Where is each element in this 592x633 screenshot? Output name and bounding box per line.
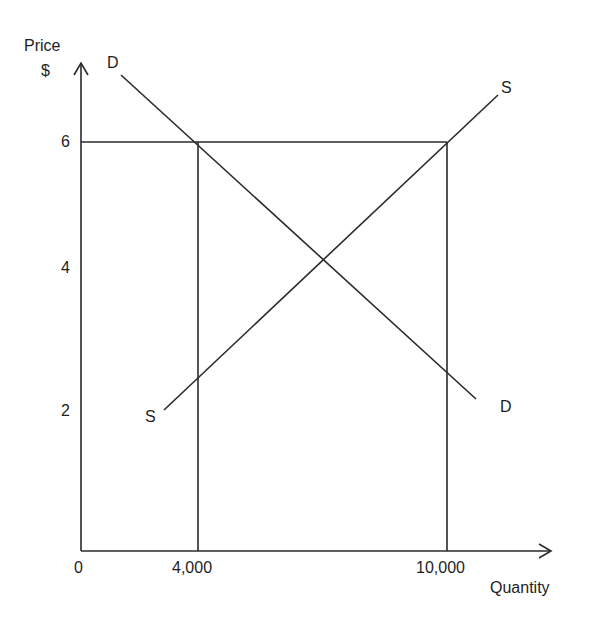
y-tick-2: 2 xyxy=(61,403,70,419)
y-tick-6: 6 xyxy=(61,134,70,150)
x-tick-0: 0 xyxy=(74,560,83,576)
x-tick-10000: 10,000 xyxy=(416,560,465,576)
x-axis-title-quantity: Quantity xyxy=(490,580,550,596)
demand-label-top: D xyxy=(107,55,119,71)
supply-label-bottom: S xyxy=(145,409,156,425)
y-tick-4: 4 xyxy=(61,260,70,276)
demand-curve xyxy=(121,75,476,399)
x-tick-4000: 4,000 xyxy=(172,560,212,576)
y-axis-title-price: Price xyxy=(24,38,60,54)
demand-label-bottom: D xyxy=(500,399,512,415)
y-axis-title-dollar: $ xyxy=(41,63,50,79)
supply-label-top: S xyxy=(501,80,512,96)
